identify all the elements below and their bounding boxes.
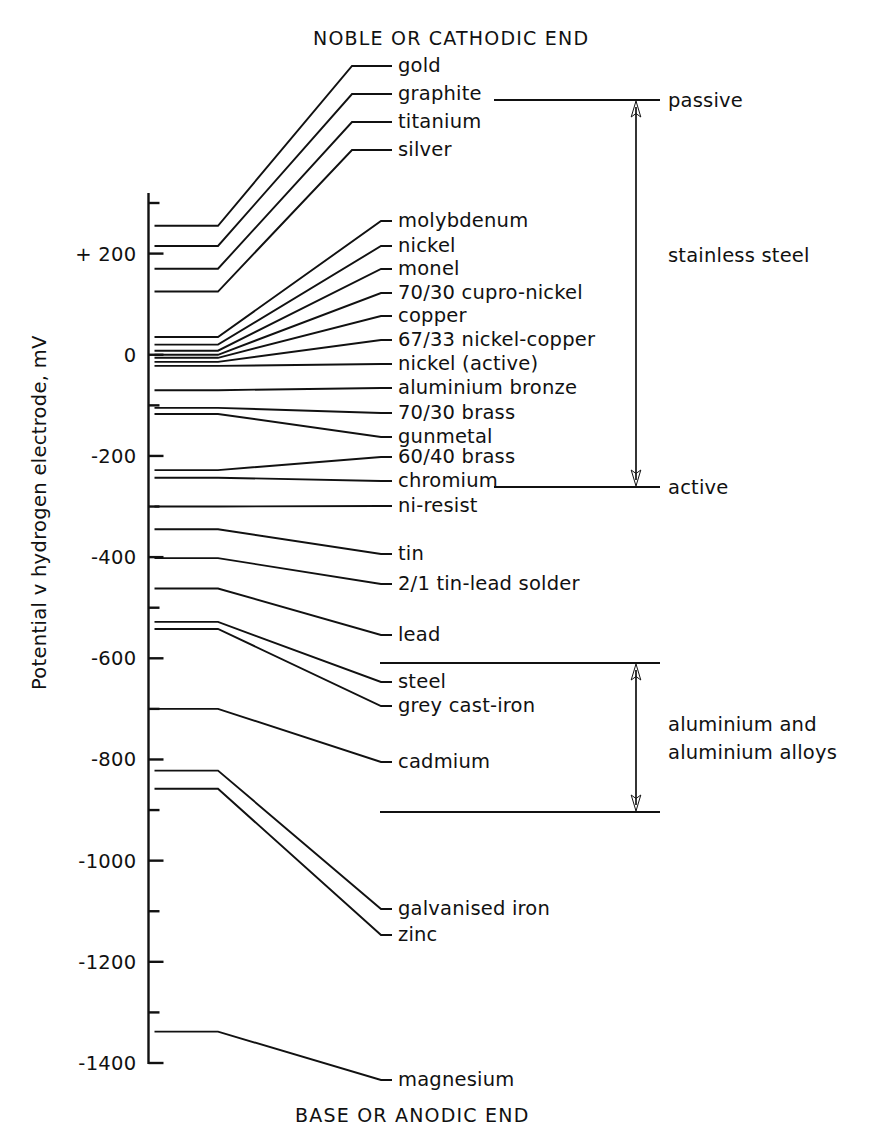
annotation-passive: passive bbox=[668, 89, 743, 112]
series-label-silver: silver bbox=[398, 138, 453, 161]
noble-cathodic-end-header: NOBLE OR CATHODIC END bbox=[313, 27, 589, 49]
series-label-magnesium: magnesium bbox=[398, 1068, 514, 1091]
y-axis-tick-label: -600 bbox=[91, 647, 136, 670]
annotation-active: active bbox=[668, 476, 728, 499]
series-leader-line bbox=[155, 771, 393, 909]
y-axis-tick-label: -200 bbox=[91, 445, 136, 468]
series-leader-line bbox=[155, 529, 393, 554]
y-axis-tick-label: + 200 bbox=[75, 243, 136, 266]
series-label-2-1-tin-lead-solder: 2/1 tin-lead solder bbox=[398, 572, 580, 595]
y-axis-tick-label: -800 bbox=[91, 748, 136, 771]
y-axis-tick-layer: + 2000-200-400-600-800-1000-1200-1400 bbox=[75, 203, 163, 1075]
series-label-grey-cast-iron: grey cast-iron bbox=[398, 694, 535, 717]
series-label-ni-resist: ni-resist bbox=[398, 494, 478, 517]
series-label-tin: tin bbox=[398, 542, 424, 565]
series-label-steel: steel bbox=[398, 670, 446, 693]
series-label-cadmium: cadmium bbox=[398, 750, 490, 773]
y-axis-tick-label: 0 bbox=[124, 344, 137, 367]
series-label-monel: monel bbox=[398, 257, 460, 280]
series-leader-line bbox=[155, 622, 393, 682]
series-leader-line bbox=[155, 1032, 393, 1080]
series-label-chromium: chromium bbox=[398, 469, 498, 492]
series-label-70-30-brass: 70/30 brass bbox=[398, 401, 515, 424]
series-leader-line bbox=[155, 558, 393, 584]
series-leader-line bbox=[155, 246, 393, 345]
annotation-stainless-steel: stainless steel bbox=[668, 244, 810, 267]
series-label-60-40-brass: 60/40 brass bbox=[398, 445, 515, 468]
series-label-titanium: titanium bbox=[398, 110, 481, 133]
series-leader-line bbox=[155, 269, 393, 351]
series-label-zinc: zinc bbox=[398, 923, 438, 946]
series-label-copper: copper bbox=[398, 304, 467, 327]
series-label-gold: gold bbox=[398, 54, 441, 77]
series-label-molybdenum: molybdenum bbox=[398, 209, 528, 232]
series-label-nickel: nickel bbox=[398, 234, 456, 257]
series-label-nickel-active-: nickel (active) bbox=[398, 352, 538, 375]
annotation-aluminium-line1: aluminium and bbox=[668, 713, 817, 736]
y-axis-tick-label: -1000 bbox=[78, 850, 136, 873]
series-leader-line bbox=[155, 94, 393, 246]
series-leader-line bbox=[155, 364, 393, 366]
series-label-aluminium-bronze: aluminium bronze bbox=[398, 376, 577, 399]
series-label-70-30-cupro-nickel: 70/30 cupro-nickel bbox=[398, 281, 583, 304]
y-axis-tick-label: -1200 bbox=[78, 951, 136, 974]
base-anodic-end-header: BASE OR ANODIC END bbox=[295, 1104, 530, 1126]
series-leader-line bbox=[155, 388, 393, 390]
series-label-layer: goldgraphitetitaniumsilvermolybdenumnick… bbox=[398, 54, 596, 1091]
series-label-lead: lead bbox=[398, 623, 441, 646]
series-leader-line bbox=[155, 150, 393, 292]
series-leader-line bbox=[155, 221, 393, 337]
series-label-graphite: graphite bbox=[398, 82, 482, 105]
series-leader-line bbox=[155, 66, 393, 226]
series-leader-line bbox=[155, 478, 393, 481]
series-leader-line bbox=[155, 506, 393, 507]
series-label-67-33-nickel-copper: 67/33 nickel-copper bbox=[398, 328, 596, 351]
series-leader-line bbox=[155, 408, 393, 413]
series-leader-line bbox=[155, 789, 393, 935]
series-leader-line bbox=[155, 709, 393, 762]
y-axis-title: Potential v hydrogen electrode, mV bbox=[28, 335, 51, 690]
annotation-aluminium-line2: aluminium alloys bbox=[668, 741, 837, 764]
series-leader-line bbox=[155, 629, 393, 706]
y-axis-tick-label: -400 bbox=[91, 546, 136, 569]
series-label-galvanised-iron: galvanised iron bbox=[398, 897, 550, 920]
series-leader-line bbox=[155, 457, 393, 470]
chart-canvas: NOBLE OR CATHODIC END BASE OR ANODIC END… bbox=[0, 0, 875, 1144]
series-leader-line bbox=[155, 414, 393, 437]
galvanic-series-figure: NOBLE OR CATHODIC END BASE OR ANODIC END… bbox=[0, 0, 875, 1144]
series-line-layer bbox=[155, 66, 393, 1080]
y-axis-tick-label: -1400 bbox=[78, 1052, 136, 1075]
